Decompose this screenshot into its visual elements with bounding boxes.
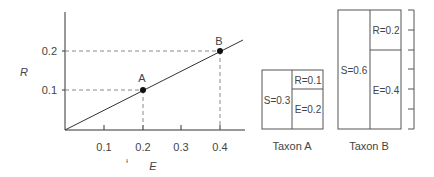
taxon-b-s-label: S=0.6 [341, 65, 368, 76]
x-tick-label: 0.3 [173, 141, 188, 153]
point-a [140, 87, 146, 93]
x-tick-label: 0.4 [212, 141, 227, 153]
stray-mark: ᵻ [126, 157, 128, 164]
point-a-label: A [138, 72, 146, 84]
taxon-a-s-label: S=0.3 [264, 95, 291, 106]
taxon-b-r-label: R=0.2 [373, 25, 400, 36]
x-axis-label: E [149, 160, 157, 172]
x-tick-label: 0.2 [135, 141, 150, 153]
point-b-label: B [215, 35, 222, 47]
y-tick-label: 0.2 [42, 45, 57, 57]
trend-line [65, 40, 243, 130]
taxon-b-diagram: S=0.6 R=0.2 E=0.4 Taxon B [338, 10, 401, 152]
taxon-a-diagram: S=0.3 R=0.1 E=0.2 Taxon A [262, 70, 323, 152]
taxon-a-e-label: E=0.2 [295, 104, 322, 115]
point-b [217, 48, 223, 54]
taxon-a-name: Taxon A [272, 140, 312, 152]
taxon-b-name: Taxon B [349, 140, 389, 152]
y-axis-label: R [20, 66, 28, 78]
graph: 0.2 0.1 0.1 0.2 0.3 0.4 R E ᵻ A B [20, 12, 245, 172]
taxon-a-r-label: R=0.1 [295, 75, 322, 86]
taxon-b-e-label: E=0.4 [373, 85, 400, 96]
diagram-canvas: 0.2 0.1 0.1 0.2 0.3 0.4 R E ᵻ A B S=0.3 … [0, 0, 434, 177]
x-tick-label: 0.1 [96, 141, 111, 153]
scale-bar [408, 10, 414, 129]
y-tick-label: 0.1 [42, 84, 57, 96]
